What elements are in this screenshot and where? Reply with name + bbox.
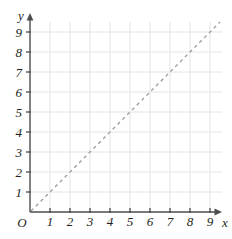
vertical-gridlines <box>50 22 210 212</box>
horizontal-gridlines <box>30 32 222 192</box>
y-tick-label-8: 8 <box>16 45 23 60</box>
x-tick-label-2: 2 <box>67 214 74 229</box>
y-tick-label-4: 4 <box>16 125 23 140</box>
y-axis-label: y <box>16 8 24 23</box>
y-tick-label-5: 5 <box>16 105 23 120</box>
y-tick-label-6: 6 <box>16 85 23 100</box>
x-tick-label-9: 9 <box>207 214 214 229</box>
y-tick-label-2: 2 <box>16 165 23 180</box>
x-axis-tick-labels: 1 2 3 4 5 6 7 8 9 <box>47 214 214 229</box>
x-axis-arrowhead <box>215 209 223 216</box>
x-tick-label-6: 6 <box>147 214 154 229</box>
y-tick-label-1: 1 <box>16 185 23 200</box>
x-axis-label: x <box>221 215 228 230</box>
x-tick-label-7: 7 <box>167 214 174 229</box>
x-tick-label-8: 8 <box>187 214 194 229</box>
plot-area: 1 2 3 4 5 6 7 8 9 1 2 3 4 5 6 7 8 9 O y … <box>0 0 232 239</box>
y-tick-label-9: 9 <box>16 25 23 40</box>
origin-label: O <box>17 215 27 230</box>
coordinate-graph-figure: 1 2 3 4 5 6 7 8 9 1 2 3 4 5 6 7 8 9 O y … <box>0 0 232 239</box>
y-axis-tick-labels: 1 2 3 4 5 6 7 8 9 <box>15 25 23 200</box>
y-tick-label-3: 3 <box>15 145 23 160</box>
x-tick-label-3: 3 <box>86 214 94 229</box>
y-tick-label-7: 7 <box>16 65 23 80</box>
y-axis-arrowhead <box>27 13 34 21</box>
x-tick-label-1: 1 <box>47 214 54 229</box>
data-line-y-equals-x <box>31 22 220 211</box>
x-tick-label-5: 5 <box>127 214 134 229</box>
x-tick-label-4: 4 <box>107 214 114 229</box>
